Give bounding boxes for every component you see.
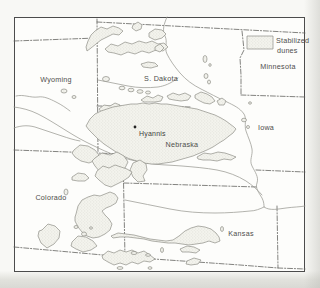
state-label-kansas: Kansas — [228, 229, 254, 238]
state-label-s-dakota: S. Dakota — [144, 74, 178, 83]
town-label-hyannis: Hyannis — [139, 130, 166, 138]
scanned-map-page: Stabilized dunes Wyoming S. Dakota Minne… — [0, 0, 320, 288]
state-label-nebraska: Nebraska — [166, 140, 199, 149]
legend-label-line2: dunes — [277, 46, 298, 55]
state-label-iowa: Iowa — [258, 123, 274, 132]
state-label-wyoming: Wyoming — [40, 75, 72, 84]
legend-swatch-stipple — [247, 36, 273, 49]
dune-map-figure: Stabilized dunes Wyoming S. Dakota Minne… — [0, 0, 320, 288]
state-label-colorado: Colorado — [35, 193, 66, 202]
town-dot-icon — [134, 126, 137, 129]
state-label-minnesota: Minnesota — [260, 62, 295, 71]
legend-label-line1: Stabilized — [276, 36, 309, 45]
